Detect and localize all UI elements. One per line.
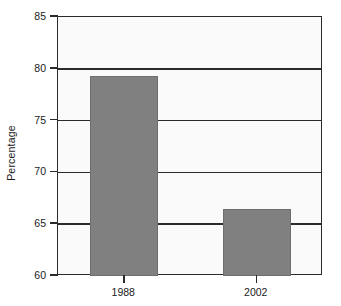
y-axis-tick-label: 65 xyxy=(20,217,46,229)
x-axis-tick xyxy=(123,275,125,283)
y-axis-tick-label: 75 xyxy=(20,114,46,126)
x-axis-tick-label: 2002 xyxy=(226,286,286,298)
y-axis-tick-label: 70 xyxy=(20,165,46,177)
gridline xyxy=(58,68,321,70)
bar-chart-figure: Percentage 606570758085 19882002 xyxy=(0,0,341,306)
y-axis-tick-label: 80 xyxy=(20,62,46,74)
y-axis-tick-label: 60 xyxy=(20,269,46,281)
bar xyxy=(223,209,291,276)
x-axis-tick-label: 1988 xyxy=(93,286,153,298)
x-axis-tick xyxy=(256,275,258,283)
plot-area xyxy=(57,16,322,275)
y-axis-title: Percentage xyxy=(0,0,22,306)
bar xyxy=(90,76,158,276)
y-axis-tick-label: 85 xyxy=(20,10,46,22)
